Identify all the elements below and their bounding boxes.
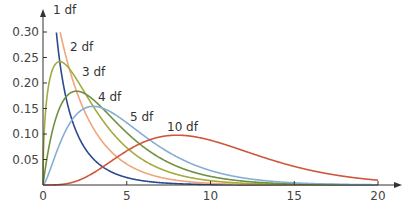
y-tick-label: 0.30 — [12, 25, 39, 39]
y-tick-label: 0.15 — [12, 102, 39, 116]
curve-10df — [43, 135, 378, 185]
curve-label-5df: 5 df — [130, 110, 154, 124]
y-ticks: 0.050.100.150.200.250.30 — [12, 25, 47, 167]
x-tick-label: 10 — [203, 189, 218, 203]
x-tick-label: 15 — [287, 189, 302, 203]
curve-label-4df: 4 df — [98, 90, 122, 104]
axes-group — [40, 9, 402, 188]
x-axis-arrow-icon — [394, 182, 402, 188]
curve-2df — [60, 32, 378, 185]
x-tick-label: 5 — [123, 189, 131, 203]
y-tick-label: 0.20 — [12, 76, 39, 90]
curve-3df — [43, 62, 378, 185]
curve-labels: 1 df2 df3 df4 df5 df10 df — [53, 3, 199, 134]
x-tick-label: 20 — [370, 189, 385, 203]
curve-label-1df: 1 df — [53, 3, 77, 17]
curve-label-10df: 10 df — [167, 120, 199, 134]
curve-label-3df: 3 df — [82, 65, 106, 79]
y-axis-arrow-icon — [40, 9, 46, 17]
chi-square-chart: 05101520 0.050.100.150.200.250.30 1 df2 … — [0, 0, 414, 205]
curve-label-2df: 2 df — [70, 40, 94, 54]
y-tick-label: 0.05 — [12, 153, 39, 167]
curves-group — [43, 32, 378, 185]
y-tick-label: 0.10 — [12, 127, 39, 141]
y-tick-label: 0.25 — [12, 51, 39, 65]
x-tick-label: 0 — [39, 189, 47, 203]
